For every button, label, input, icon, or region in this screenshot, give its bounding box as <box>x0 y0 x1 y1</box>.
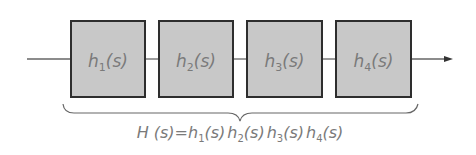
svg-text:h2(s): h2(s) <box>176 51 216 74</box>
block-h1: h1(s) <box>71 21 145 97</box>
block-h3-name: h <box>265 51 276 71</box>
block-h4-name: h <box>354 51 365 71</box>
svg-text:h4(s): h4(s) <box>354 51 394 74</box>
block-h2-name: h <box>176 51 187 71</box>
block-h4: h4(s) <box>336 21 411 97</box>
underbrace <box>63 104 418 121</box>
block-h2: h2(s) <box>159 21 233 97</box>
svg-text:h1(s): h1(s) <box>88 51 128 74</box>
transfer-function-formula: H (s)=h1(s)h2(s)h3(s)h4(s) <box>137 123 344 144</box>
cascade-diagram: h1(s) h2(s) h3(s) h4(s) H (s)=h1(s)h2(s)… <box>0 0 476 155</box>
output-arrow-icon <box>444 56 453 62</box>
block-h1-name: h <box>88 51 99 71</box>
block-h3: h3(s) <box>247 21 322 97</box>
svg-text:h3(s): h3(s) <box>265 51 305 74</box>
